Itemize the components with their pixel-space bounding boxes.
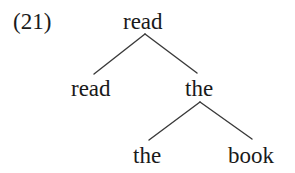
tree-node-root: read <box>123 10 163 33</box>
tree-node-left-read: read <box>71 77 111 100</box>
tree-node-leaf-book: book <box>228 144 274 167</box>
edge-root-to-read <box>94 34 145 74</box>
edge-the-to-the <box>149 102 200 140</box>
edge-the-to-book <box>200 102 252 139</box>
syntax-tree-figure: (21) read read the the book <box>0 0 295 173</box>
edge-root-to-the <box>145 34 197 73</box>
example-number: (21) <box>13 10 51 33</box>
tree-node-right-the: the <box>185 77 213 100</box>
tree-node-leaf-the: the <box>133 144 161 167</box>
